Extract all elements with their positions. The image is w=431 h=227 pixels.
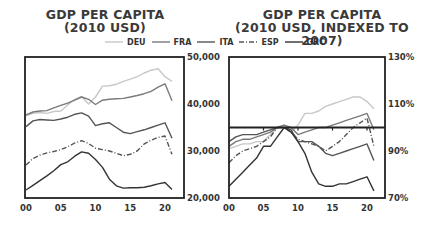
x-tick-label: 10: [90, 203, 102, 213]
gdp-levels-chart: 50,00040,00030,00020,0000005101520: [20, 52, 220, 213]
plot-frame: [25, 57, 184, 198]
x-tick-label: 20: [159, 203, 171, 213]
series-line-grc: [26, 152, 172, 190]
series-line-esp: [26, 136, 172, 165]
x-tick-label: 15: [124, 203, 136, 213]
x-tick-label: 05: [55, 203, 67, 213]
y-tick-label: 30,000: [187, 146, 220, 156]
x-tick-label: 20: [361, 203, 373, 213]
y-tick-label: 70%: [388, 193, 409, 203]
y-tick-label: 20,000: [187, 193, 220, 203]
y-tick-label: 40,000: [187, 99, 220, 109]
y-tick-label: 50,000: [187, 52, 220, 62]
x-tick-label: 10: [292, 203, 304, 213]
charts-canvas: 50,00040,00030,00020,0000005101520130%11…: [0, 0, 431, 227]
gdp-indexed-chart: 130%110%90%70%0005101520: [223, 52, 415, 213]
series-line-ita: [26, 113, 172, 138]
y-tick-label: 130%: [388, 52, 415, 62]
series-line-esp: [229, 118, 374, 163]
x-tick-label: 15: [327, 203, 339, 213]
series-line-grc: [229, 128, 374, 191]
series-line-fra: [26, 84, 172, 115]
y-tick-label: 110%: [388, 99, 415, 109]
x-tick-label: 00: [20, 203, 32, 213]
x-tick-label: 00: [223, 203, 235, 213]
x-tick-label: 05: [258, 203, 270, 213]
y-tick-label: 90%: [388, 146, 409, 156]
